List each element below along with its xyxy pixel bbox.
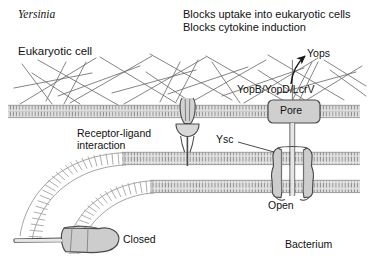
eukaryotic-cell-label: Eukaryotic cell [18,45,92,59]
translocator-proteins-label: YopB/YopD/LcrV [237,83,314,95]
ysc-leader-line [238,142,274,152]
diagram-canvas [0,0,368,268]
receptor-ligand-line-2: interaction [77,139,151,151]
bacterium-label: Bacterium [285,238,332,250]
effects-line-2: Blocks cytokine induction [183,21,351,34]
receptor-ligand-annotation: Receptor-ligand interaction [77,127,151,152]
yops-label: Yops [307,47,330,59]
closed-state-label: Closed [123,233,156,245]
pore-label: Pore [280,104,302,116]
outer-membrane-curve-hatch [29,153,124,237]
yersinia-type-three-secretion-diagram: Yersinia Eukaryotic cell Blocks uptake i… [0,0,368,268]
injectisome-needle [290,60,295,196]
effects-line-1: Blocks uptake into eukaryotic cells [183,8,351,21]
receptor-ligand-line-1: Receptor-ligand [77,127,151,139]
effects-annotation: Blocks uptake into eukaryotic cells Bloc… [183,8,351,34]
open-state-label: Open [268,199,294,211]
cytoskeleton-filaments [14,54,366,105]
organism-label: Yersinia [18,8,55,22]
ysc-label: Ysc [216,133,234,145]
